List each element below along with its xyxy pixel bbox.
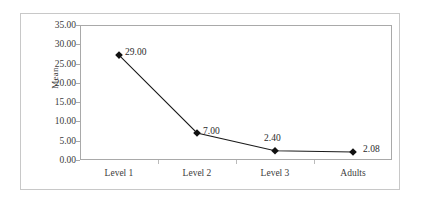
x-tick-mark-1	[158, 160, 159, 164]
y-tick-mark-10	[76, 121, 80, 122]
y-tick-label-20: 20.00	[36, 78, 76, 88]
y-tick-mark-5	[76, 141, 80, 142]
y-tick-label-30: 30.00	[36, 39, 76, 49]
x-axis-tick-labels: Level 1 Level 2 Level 3 Adults	[80, 168, 392, 184]
data-label-level-2: 7.00	[203, 126, 220, 136]
y-tick-label-35: 35.00	[36, 20, 76, 30]
y-tick-label-5: 5.00	[36, 136, 76, 146]
x-tick-mark-2	[236, 160, 237, 164]
data-label-level-1: 29.00	[125, 47, 146, 57]
x-tick-mark-3	[314, 160, 315, 164]
y-tick-mark-15	[76, 102, 80, 103]
y-tick-mark-0	[76, 160, 80, 161]
y-tick-label-15: 15.00	[36, 97, 76, 107]
y-tick-label-10: 10.00	[36, 116, 76, 126]
y-axis-tick-labels: 35.00 30.00 25.00 20.00 15.00 10.00 5.00…	[36, 25, 76, 160]
y-tick-mark-30	[76, 44, 80, 45]
x-tick-label-level-3: Level 3	[236, 168, 314, 178]
y-tick-mark-25	[76, 64, 80, 65]
x-tick-label-level-1: Level 1	[80, 168, 158, 178]
plot-area-border	[80, 25, 392, 160]
y-tick-mark-35	[76, 25, 80, 26]
x-tick-label-adults: Adults	[314, 168, 392, 178]
data-label-level-3: 2.40	[264, 133, 281, 143]
x-tick-label-level-2: Level 2	[158, 168, 236, 178]
chart-figure: Mean 35.00 30.00 25.00 20.00 15.00 10.00…	[0, 0, 424, 205]
y-tick-mark-20	[76, 83, 80, 84]
data-label-adults: 2.08	[363, 144, 380, 154]
y-tick-label-0: 0.00	[36, 155, 76, 165]
y-tick-label-25: 25.00	[36, 59, 76, 69]
